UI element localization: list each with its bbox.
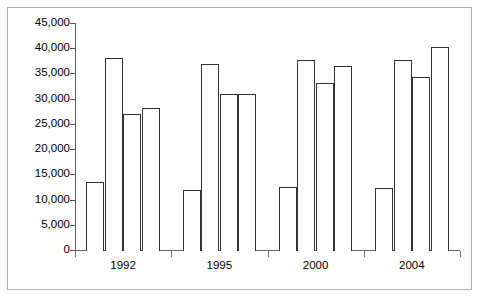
bar: [201, 64, 219, 251]
bar: [105, 58, 123, 251]
x-axis-group-separator: [364, 251, 365, 257]
bar: [279, 187, 297, 251]
bar: [412, 77, 430, 251]
bar: [297, 60, 315, 251]
bar: [86, 182, 104, 251]
bar: [123, 114, 141, 251]
bar: [375, 188, 393, 251]
bar: [394, 60, 412, 251]
x-axis-group-separator: [268, 251, 269, 257]
x-axis-group-label: 2004: [382, 259, 442, 272]
bar: [220, 94, 238, 251]
x-axis-group-label: 1995: [189, 259, 249, 272]
x-axis-group-label: 1992: [93, 259, 153, 272]
chart-canvas: 45,00040,00035,00030,00025,00020,00015,0…: [0, 0, 480, 306]
bar: [142, 108, 160, 251]
bar: [431, 47, 449, 251]
x-axis-group-separator: [75, 251, 76, 257]
bar: [316, 83, 334, 251]
bar: [334, 66, 352, 251]
bar: [238, 94, 256, 251]
x-axis-group-label: 2000: [286, 259, 346, 272]
bar: [183, 190, 201, 251]
x-axis-group-separator: [460, 251, 461, 257]
x-axis-group-separator: [171, 251, 172, 257]
